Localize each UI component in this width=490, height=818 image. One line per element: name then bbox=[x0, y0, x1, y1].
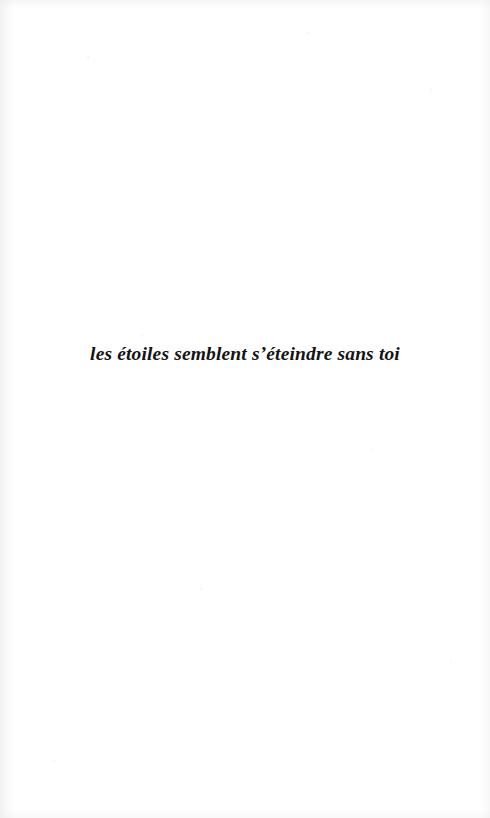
body-line-1: les étoiles semblent s’éteindre sans toi bbox=[90, 340, 400, 368]
scanned-page: les étoiles semblent s’éteindre sans toi bbox=[0, 0, 490, 818]
scan-speckle-noise bbox=[0, 0, 490, 818]
scan-edge-tint bbox=[0, 0, 490, 818]
page-text-block: les étoiles semblent s’éteindre sans toi bbox=[0, 340, 490, 368]
